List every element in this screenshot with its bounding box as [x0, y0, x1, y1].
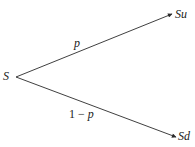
up-probability-label: p: [74, 37, 80, 49]
up-branch-arrow: [16, 14, 172, 77]
down-probability-prefix: 1 −: [69, 107, 88, 121]
down-probability-label: 1 − p: [69, 108, 94, 120]
root-node-label: S: [3, 70, 9, 82]
down-branch-arrow: [16, 77, 176, 137]
tree-edges: [0, 0, 195, 147]
down-node-label: Sd: [178, 130, 190, 142]
down-probability-var: p: [88, 107, 94, 121]
binomial-tree-diagram: S Su Sd p 1 − p: [0, 0, 195, 147]
up-node-label: Su: [175, 8, 187, 20]
